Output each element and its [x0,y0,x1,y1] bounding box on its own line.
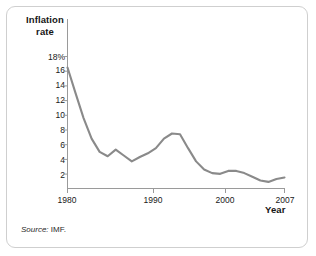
inflation-rate-line-chart: Inflation rate 18% 16 14 12 10 8 6 4 2 1… [7,7,309,249]
inflation-data-line [68,68,285,182]
figure-card: Inflation rate 18% 16 14 12 10 8 6 4 2 1… [6,6,308,248]
plot-svg [7,7,309,249]
source-value: IMF. [51,225,66,234]
y-tick-marks [63,57,68,175]
source-note: Source: IMF. [21,225,66,234]
axes-group [68,19,286,189]
source-prefix: Source: [21,225,49,234]
x-tick-marks [68,189,285,194]
